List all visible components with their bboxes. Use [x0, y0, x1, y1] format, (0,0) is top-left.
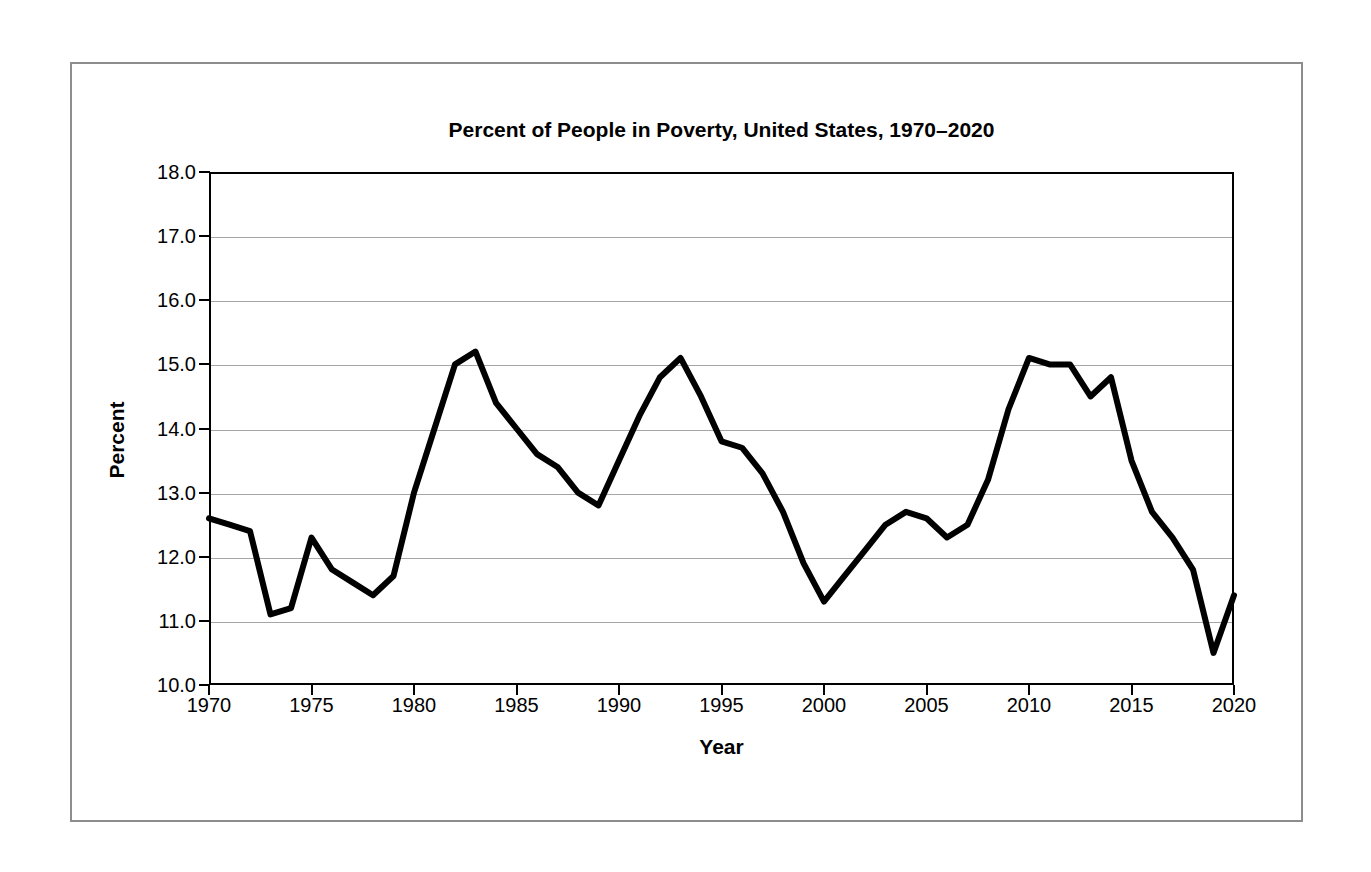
poverty-rate-line	[209, 352, 1234, 653]
x-axis-tick-mark	[208, 685, 210, 695]
x-axis-tick-label: 2020	[1212, 694, 1257, 717]
x-axis-tick-mark	[1131, 685, 1133, 695]
x-axis-tick-label: 2010	[1007, 694, 1052, 717]
x-axis-tick-label: 1970	[187, 694, 232, 717]
y-axis-tick-label: 14.0	[157, 417, 196, 440]
y-axis-tick-label: 12.0	[157, 545, 196, 568]
y-axis-tick-label: 17.0	[157, 225, 196, 248]
y-axis-tick-label: 13.0	[157, 481, 196, 504]
x-axis-tick-mark	[311, 685, 313, 695]
x-axis-tick-label: 1985	[494, 694, 539, 717]
y-axis-tick-label: 16.0	[157, 289, 196, 312]
x-axis-tick-label: 2000	[802, 694, 847, 717]
chart-title: Percent of People in Poverty, United Sta…	[209, 118, 1234, 142]
x-axis-tick-mark	[618, 685, 620, 695]
data-series-layer	[209, 172, 1234, 685]
y-axis-tick-label: 11.0	[159, 609, 196, 632]
x-axis-tick-label: 1980	[392, 694, 437, 717]
x-axis-tick-label: 2015	[1109, 694, 1154, 717]
x-axis-tick-mark	[721, 685, 723, 695]
x-axis-tick-mark	[516, 685, 518, 695]
x-axis-title: Year	[209, 735, 1234, 759]
y-axis-tick-labels: 18.017.016.015.014.013.012.011.010.0	[140, 172, 196, 685]
x-axis-tick-labels: 1970197519801985199019952000200520102015…	[209, 694, 1234, 724]
y-axis-tick-label: 18.0	[157, 161, 196, 184]
x-axis-tick-mark	[1028, 685, 1030, 695]
y-axis-tick-label: 15.0	[157, 353, 196, 376]
x-axis-tick-label: 1990	[597, 694, 642, 717]
x-axis-tick-mark	[1233, 685, 1235, 695]
x-axis-tick-mark	[413, 685, 415, 695]
x-axis-tick-label: 2005	[904, 694, 949, 717]
y-axis-title: Percent	[105, 401, 129, 478]
x-axis-tick-label: 1995	[699, 694, 744, 717]
chart-canvas: Percent of People in Poverty, United Sta…	[0, 0, 1371, 872]
x-axis-tick-mark	[823, 685, 825, 695]
x-axis-tick-label: 1975	[289, 694, 334, 717]
x-axis-tick-mark	[926, 685, 928, 695]
